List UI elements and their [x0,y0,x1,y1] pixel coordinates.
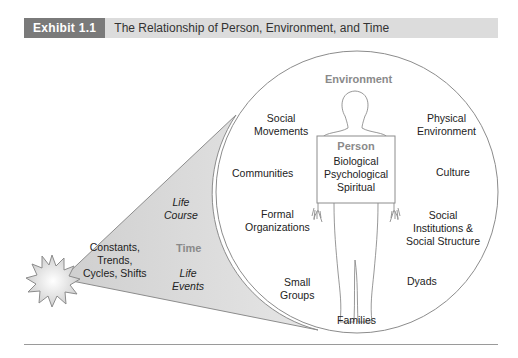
label-small-groups: Small Groups [280,276,314,302]
time-heading: Time [176,242,201,255]
label-culture: Culture [436,166,470,179]
person-dimensions: Biological Psychological Spiritual [317,155,395,194]
label-formal-organizations: Formal Organizations [245,208,310,234]
starburst-icon [26,255,80,307]
label-dyads: Dyads [407,275,437,288]
label-constants-trends: Constants, Trends, Cycles, Shifts [83,241,147,280]
label-life-course: Life Course [164,196,198,222]
label-families: Families [337,314,376,327]
label-social-institutions: Social Institutions & Social Structure [406,209,480,248]
label-communities: Communities [232,167,293,180]
environment-heading: Environment [325,73,392,86]
label-physical-environment: Physical Environment [417,112,476,138]
label-social-movements: Social Movements [254,112,308,138]
person-heading: Person [317,140,395,153]
footer-divider [24,344,498,345]
label-life-events: Life Events [172,267,204,293]
